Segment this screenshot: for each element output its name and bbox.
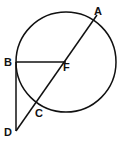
label-A: A	[94, 5, 102, 17]
label-F: F	[63, 61, 70, 73]
geometry-diagram: A B F C D	[0, 0, 118, 142]
secant-line-AD	[16, 15, 97, 131]
label-B: B	[4, 56, 12, 68]
label-D: D	[4, 126, 12, 138]
label-C: C	[35, 107, 43, 119]
